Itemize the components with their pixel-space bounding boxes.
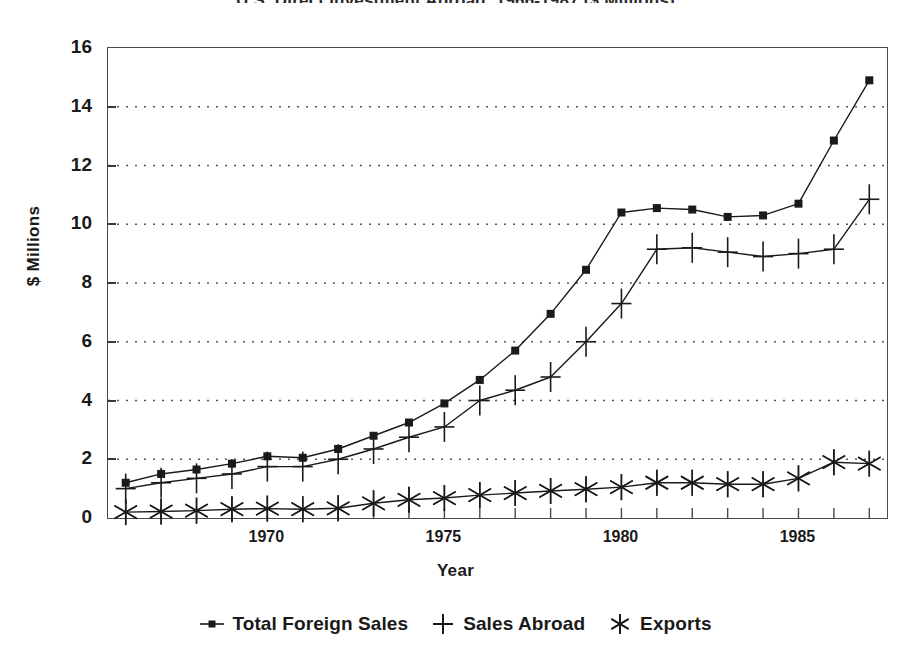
y-axis-tick xyxy=(107,341,116,343)
data-point-marker xyxy=(151,468,171,498)
legend-item-label: Total Foreign Sales xyxy=(232,613,408,635)
y-axis-tick-label: 14 xyxy=(52,96,92,115)
plus-marker-icon xyxy=(430,613,456,635)
data-point-marker xyxy=(830,137,838,145)
legend-item[interactable]: Exports xyxy=(607,613,711,635)
x-axis-tick-label: 1975 xyxy=(408,528,478,546)
data-point-marker xyxy=(470,386,490,416)
legend-item[interactable]: Sales Abroad xyxy=(430,613,585,635)
data-point-marker xyxy=(724,213,732,221)
line-chart: U.S. Direct Investment Abroad, 1966-1987… xyxy=(0,0,911,649)
legend-item-label: Exports xyxy=(640,613,711,635)
y-axis-tick-label: 8 xyxy=(52,272,92,291)
data-point-marker xyxy=(476,376,484,384)
legend-item-label: Sales Abroad xyxy=(463,613,585,635)
square-marker-icon xyxy=(199,613,225,635)
data-point-marker xyxy=(787,465,810,491)
series-line xyxy=(126,199,870,488)
data-point-marker xyxy=(362,490,385,516)
data-point-marker xyxy=(582,266,590,274)
y-axis-title: $ Millions xyxy=(24,176,44,316)
chart-legend: Total Foreign SalesSales AbroadExports xyxy=(0,613,911,635)
data-point-marker xyxy=(328,444,348,474)
y-axis-tick-label: 12 xyxy=(52,155,92,174)
data-point-marker xyxy=(541,362,561,392)
y-axis-tick-label: 10 xyxy=(52,213,92,232)
data-point-marker xyxy=(718,237,738,267)
legend-item[interactable]: Total Foreign Sales xyxy=(199,613,408,635)
data-point-marker xyxy=(759,211,767,219)
data-point-marker xyxy=(865,76,873,84)
data-point-marker xyxy=(617,209,625,217)
y-axis-tick-labels: 0246810121416 xyxy=(52,0,92,649)
data-point-marker xyxy=(511,347,519,355)
asterisk-marker-icon xyxy=(607,613,633,635)
y-axis-tick xyxy=(107,400,116,402)
y-axis-tick xyxy=(107,165,116,167)
data-point-marker xyxy=(788,239,808,269)
y-axis-tick-label: 4 xyxy=(52,390,92,409)
data-point-marker xyxy=(794,200,802,208)
y-axis-tick xyxy=(107,223,116,225)
data-point-marker xyxy=(688,206,696,214)
y-axis-tick-label: 2 xyxy=(52,448,92,467)
y-axis-tick xyxy=(107,282,116,284)
data-point-marker xyxy=(440,399,448,407)
data-point-marker xyxy=(434,412,454,442)
x-axis-title: Year xyxy=(0,561,911,581)
data-point-marker xyxy=(399,422,419,452)
data-point-marker xyxy=(682,233,702,263)
data-point-marker xyxy=(222,459,242,489)
x-axis-tick-label: 1985 xyxy=(762,528,832,546)
y-axis-tick xyxy=(107,458,116,460)
data-point-marker xyxy=(547,310,555,318)
plot-area xyxy=(107,47,888,519)
data-point-marker xyxy=(576,327,596,357)
data-point-marker xyxy=(653,204,661,212)
y-axis-tick-label: 0 xyxy=(52,507,92,526)
data-point-marker xyxy=(753,242,773,272)
x-axis-tick-label: 1970 xyxy=(231,528,301,546)
y-axis-tick xyxy=(107,106,116,108)
y-axis-tick-label: 6 xyxy=(52,331,92,350)
chart-title: U.S. Direct Investment Abroad, 1966-1987… xyxy=(0,0,911,3)
y-axis-tick-label: 16 xyxy=(52,37,92,56)
x-axis-tick-label: 1980 xyxy=(585,528,655,546)
series-line xyxy=(126,80,870,482)
plot-canvas xyxy=(108,48,887,518)
